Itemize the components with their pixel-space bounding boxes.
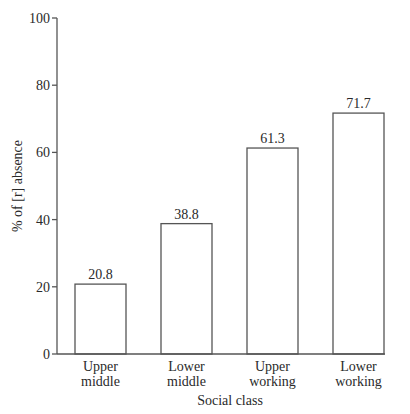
- bar-value-label: 20.8: [88, 267, 113, 282]
- x-axis: UppermiddleLowermiddleUpperworkingLowerw…: [57, 354, 385, 389]
- x-category-label: Lower: [340, 359, 377, 374]
- x-category-label: working: [249, 374, 296, 389]
- bar: [75, 284, 126, 354]
- bar-value-label: 71.7: [346, 96, 371, 111]
- bars: 20.838.861.371.7: [75, 96, 384, 354]
- x-category-label: middle: [81, 374, 120, 389]
- x-axis-title: Social class: [197, 393, 263, 408]
- y-tick-label: 60: [36, 145, 50, 160]
- y-tick-label: 80: [36, 78, 50, 93]
- bar: [161, 224, 212, 354]
- x-category-label: Upper: [255, 359, 290, 374]
- y-axis-title: % of [r] absence: [10, 140, 25, 232]
- y-tick-label: 20: [36, 280, 50, 295]
- bar: [247, 148, 298, 354]
- x-category-label: working: [335, 374, 382, 389]
- bar-value-label: 61.3: [260, 131, 285, 146]
- y-tick-label: 40: [36, 213, 50, 228]
- bar: [333, 113, 384, 354]
- bar-value-label: 38.8: [174, 207, 199, 222]
- y-tick-label: 100: [29, 11, 50, 26]
- y-axis: 020406080100: [29, 11, 57, 362]
- x-category-label: Lower: [168, 359, 205, 374]
- y-tick-label: 0: [43, 347, 50, 362]
- x-category-label: middle: [167, 374, 206, 389]
- x-category-label: Upper: [83, 359, 118, 374]
- bar-chart: 020406080100 20.838.861.371.7 Uppermiddl…: [0, 0, 410, 414]
